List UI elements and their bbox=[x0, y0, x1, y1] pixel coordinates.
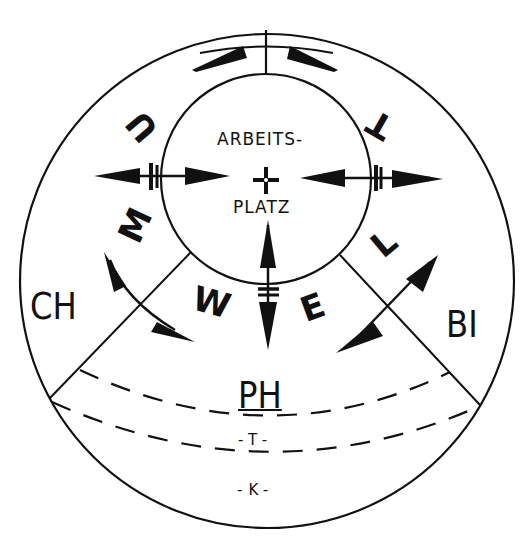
band-label-k: -K- bbox=[237, 483, 274, 498]
sector-label-bi: BI bbox=[446, 305, 478, 343]
center-label-arbeits: ARBEITS- bbox=[217, 131, 303, 148]
bottom-vertical-double-arrow-icon bbox=[258, 220, 279, 350]
band-label-t: -T- bbox=[238, 433, 273, 448]
umwelt-diagram: ARBEITS- PLATZ U M W E L T CH BI PH -T- … bbox=[0, 0, 529, 552]
sector-label-ph: PH bbox=[238, 376, 282, 414]
sector-label-ch: CH bbox=[30, 287, 77, 325]
crosshair-icon bbox=[253, 167, 279, 194]
diagram-graphics bbox=[0, 0, 529, 552]
center-label-platz: PLATZ bbox=[233, 199, 290, 216]
